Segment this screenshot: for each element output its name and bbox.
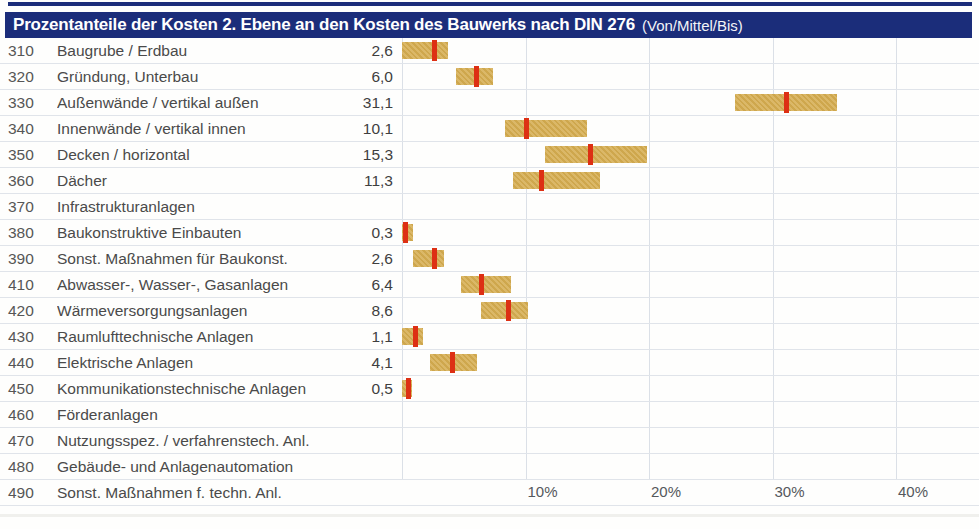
mean-percent-value: 6,4	[337, 276, 403, 294]
table-row: 320 Gründung, Unterbau 6,0	[0, 64, 979, 90]
bar-track	[402, 246, 975, 272]
cost-group-code: 410	[0, 276, 57, 294]
table-row: 470 Nutzungsspez. / verfahrenstech. Anl.	[0, 428, 979, 454]
cost-group-code: 450	[0, 380, 57, 398]
bar-track	[402, 272, 975, 298]
cost-group-label: Gebäude- und Anlagenautomation	[57, 458, 337, 476]
mean-percent-value: 11,3	[337, 172, 403, 190]
cost-group-code: 390	[0, 250, 57, 268]
cost-group-code: 360	[0, 172, 57, 190]
range-bar	[461, 276, 510, 293]
chart-legend-note: (Von/Mittel/Bis)	[642, 17, 743, 34]
cost-group-label: Baukonstruktive Einbauten	[57, 224, 337, 242]
x-axis-tick-label: 30%	[775, 483, 805, 500]
mean-percent-value: 10,1	[337, 120, 403, 138]
cost-group-code: 480	[0, 458, 57, 476]
cost-group-code: 440	[0, 354, 57, 372]
cost-group-label: Nutzungsspez. / verfahrenstech. Anl.	[57, 432, 337, 450]
chart-title: Prozentanteile der Kosten 2. Ebene an de…	[13, 15, 635, 35]
table-row: 430 Raumlufttechnische Anlagen 1,1	[0, 324, 979, 350]
bar-track	[402, 428, 975, 454]
bar-track	[402, 220, 975, 246]
range-bar	[513, 172, 599, 189]
cost-group-code: 330	[0, 94, 57, 112]
cost-group-code: 370	[0, 198, 57, 216]
table-row: 480 Gebäude- und Anlagenautomation	[0, 454, 979, 480]
mean-percent-value: 0,5	[337, 380, 403, 398]
bar-track	[402, 376, 975, 402]
cost-group-code: 340	[0, 120, 57, 138]
mean-marker	[588, 144, 593, 165]
bar-track	[402, 454, 975, 480]
bar-track	[402, 116, 975, 142]
chart-page: Prozentanteile der Kosten 2. Ebene an de…	[0, 0, 979, 529]
table-row: 340 Innenwände / vertikal innen 10,1	[0, 116, 979, 142]
x-axis-tick-label: 20%	[651, 483, 681, 500]
cost-group-label: Innenwände / vertikal innen	[57, 120, 337, 138]
cost-group-label: Elektrische Anlagen	[57, 354, 337, 372]
rows-layer: 310 Baugrube / Erdbau 2,6 320 Gründung, …	[0, 38, 979, 506]
cost-group-label: Decken / horizontal	[57, 146, 337, 164]
table-row: 450 Kommunikationstechnische Anlagen 0,5	[0, 376, 979, 402]
x-axis-tick-label: 10%	[528, 483, 558, 500]
cost-group-label: Gründung, Unterbau	[57, 68, 337, 86]
cost-group-label: Kommunikationstechnische Anlagen	[57, 380, 337, 398]
mean-marker	[506, 300, 511, 321]
bar-track	[402, 194, 975, 220]
range-bar	[505, 120, 588, 137]
bar-track	[402, 168, 975, 194]
bar-track	[402, 324, 975, 350]
table-row: 460 Förderanlagen	[0, 402, 979, 428]
mean-marker	[539, 170, 544, 191]
mean-marker	[432, 40, 437, 61]
cost-group-label: Wärmeversorgungsanlagen	[57, 302, 337, 320]
table-row: 330 Außenwände / vertikal außen 31,1	[0, 90, 979, 116]
bar-track	[402, 402, 975, 428]
mean-marker	[784, 92, 789, 113]
cost-group-code: 420	[0, 302, 57, 320]
bar-track	[402, 90, 975, 116]
mean-percent-value: 0,3	[337, 224, 403, 242]
bar-track	[402, 142, 975, 168]
mean-percent-value: 2,6	[337, 42, 403, 60]
range-bar	[413, 250, 444, 267]
range-bar	[545, 146, 646, 163]
mean-marker	[432, 248, 437, 269]
cost-group-code: 460	[0, 406, 57, 424]
mean-percent-value: 4,1	[337, 354, 403, 372]
range-bar	[402, 42, 448, 59]
cost-group-code: 350	[0, 146, 57, 164]
cost-group-code: 310	[0, 42, 57, 60]
cost-group-code: 320	[0, 68, 57, 86]
cost-group-label: Infrastrukturanlagen	[57, 198, 337, 216]
mean-percent-value: 15,3	[337, 146, 403, 164]
mean-marker	[450, 352, 455, 373]
cost-group-label: Raumlufttechnische Anlagen	[57, 328, 337, 346]
mean-percent-value: 1,1	[337, 328, 403, 346]
mean-marker	[403, 222, 408, 243]
x-axis-tick-label: 40%	[898, 483, 928, 500]
mean-marker	[413, 326, 418, 347]
cost-group-label: Sonst. Maßnahmen für Baukonst.	[57, 250, 337, 268]
cost-group-code: 380	[0, 224, 57, 242]
mean-marker	[474, 66, 479, 87]
table-row: 360 Dächer 11,3	[0, 168, 979, 194]
scan-edge-shadow	[0, 514, 979, 517]
range-bar-chart: 310 Baugrube / Erdbau 2,6 320 Gründung, …	[0, 38, 979, 506]
table-row: 310 Baugrube / Erdbau 2,6	[0, 38, 979, 64]
mean-percent-value: 8,6	[337, 302, 403, 320]
cost-group-label: Außenwände / vertikal außen	[57, 94, 337, 112]
mean-percent-value: 2,6	[337, 250, 403, 268]
table-row: 370 Infrastrukturanlagen	[0, 194, 979, 220]
cost-group-label: Baugrube / Erdbau	[57, 42, 337, 60]
x-axis-labels: 10%20%30%40%	[0, 480, 979, 506]
top-rule-line	[8, 2, 972, 6]
table-row: 380 Baukonstruktive Einbauten 0,3	[0, 220, 979, 246]
table-row: 440 Elektrische Anlagen 4,1	[0, 350, 979, 376]
table-row: 420 Wärmeversorgungsanlagen 8,6	[0, 298, 979, 324]
mean-marker	[406, 378, 411, 399]
cost-group-label: Dächer	[57, 172, 337, 190]
cost-group-label: Förderanlagen	[57, 406, 337, 424]
chart-header: Prozentanteile der Kosten 2. Ebene an de…	[5, 12, 972, 38]
bar-track	[402, 64, 975, 90]
